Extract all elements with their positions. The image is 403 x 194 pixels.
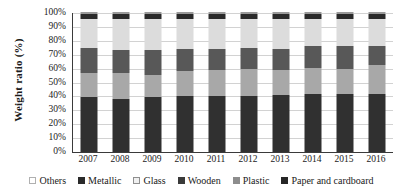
bar-segment (273, 49, 290, 70)
legend-swatch-icon (178, 177, 185, 184)
bar-segment (145, 75, 162, 97)
y-axis-tick-label: 40% (49, 92, 66, 102)
bar-segment (209, 96, 226, 152)
bar-group (105, 13, 137, 152)
x-axis-tick-label: 2008 (111, 154, 130, 164)
legend-label: Paper and cardboard (291, 175, 373, 186)
stacked-bar (337, 13, 354, 152)
bar-segment (177, 19, 194, 50)
legend-label: Wooden (188, 175, 221, 186)
stacked-bar (305, 13, 322, 152)
legend-item[interactable]: Plastic (233, 175, 270, 186)
bar-segment (113, 99, 130, 153)
bar-segment (305, 94, 322, 152)
bar-segment (305, 14, 322, 18)
bar-series-container (73, 13, 393, 152)
x-axis-tick-label: 2014 (303, 154, 322, 164)
bar-segment (113, 12, 130, 14)
legend-item[interactable]: Wooden (178, 175, 221, 186)
bar-segment (241, 12, 258, 14)
stacked-bar (241, 13, 258, 152)
bar-segment (273, 95, 290, 152)
x-axis-tick-label: 2011 (207, 154, 226, 164)
bar-segment (337, 19, 354, 47)
stacked-bar (145, 13, 162, 152)
y-axis-tick-label: 70% (49, 50, 66, 60)
y-axis-tick-label: 90% (49, 22, 66, 32)
x-axis-tick-label: 2013 (271, 154, 290, 164)
bar-segment (369, 46, 386, 65)
bar-group (265, 13, 297, 152)
y-axis-tick-label: 60% (49, 64, 66, 74)
bar-segment (81, 14, 98, 18)
bar-group (329, 13, 361, 152)
y-axis-tick-label: 50% (49, 78, 66, 88)
bar-segment (81, 12, 98, 14)
bar-segment (81, 48, 98, 72)
bar-segment (337, 94, 354, 152)
bar-segment (305, 68, 322, 94)
y-axis-tick-label: 100% (44, 8, 66, 18)
bar-segment (145, 19, 162, 50)
bar-segment (273, 12, 290, 14)
bar-segment (113, 19, 130, 50)
bar-segment (241, 96, 258, 152)
bar-group (361, 13, 393, 152)
bar-segment (177, 12, 194, 14)
y-axis-tick-label: 10% (49, 133, 66, 143)
legend-swatch-icon (29, 177, 36, 184)
bar-segment (369, 94, 386, 152)
bar-segment (337, 69, 354, 93)
bar-segment (209, 19, 226, 49)
stacked-bar (81, 13, 98, 152)
legend-item[interactable]: Others (29, 175, 66, 186)
legend-item[interactable]: Paper and cardboard (281, 175, 373, 186)
bar-segment (369, 12, 386, 14)
bar-segment (177, 14, 194, 18)
legend-swatch-icon (133, 177, 140, 184)
bar-segment (241, 69, 258, 96)
bar-segment (273, 19, 290, 50)
legend-swatch-icon (281, 177, 288, 184)
bar-segment (209, 12, 226, 14)
legend-label: Plastic (243, 175, 270, 186)
legend-label: Glass (143, 175, 165, 186)
legend-swatch-icon (233, 177, 240, 184)
bar-segment (369, 14, 386, 18)
bar-segment (241, 14, 258, 18)
x-axis-tick-label: 2007 (79, 154, 98, 164)
y-axis-tick-label: 80% (49, 36, 66, 46)
stacked-bar (209, 13, 226, 152)
bar-segment (177, 49, 194, 71)
legend-item[interactable]: Metallic (78, 175, 121, 186)
x-axis-tick-label: 2009 (143, 154, 162, 164)
x-axis-tick-label: 2010 (175, 154, 194, 164)
plot-area (72, 13, 393, 153)
bar-segment (145, 14, 162, 18)
legend-item[interactable]: Glass (133, 175, 165, 186)
bar-group (137, 13, 169, 152)
legend-label: Metallic (88, 175, 121, 186)
bar-segment (145, 97, 162, 152)
bar-segment (241, 19, 258, 49)
stacked-bar (113, 13, 130, 152)
bar-segment (369, 65, 386, 94)
bar-segment (273, 14, 290, 18)
y-axis-tick-label: 20% (49, 119, 66, 129)
bar-segment (81, 73, 98, 97)
bar-segment (145, 12, 162, 14)
bar-group (201, 13, 233, 152)
bar-segment (113, 73, 130, 98)
bar-segment (209, 49, 226, 70)
bar-segment (145, 50, 162, 75)
bar-segment (177, 96, 194, 152)
bar-segment (273, 70, 290, 95)
bar-group (169, 13, 201, 152)
y-axis-tick-label: 30% (49, 106, 66, 116)
bar-segment (177, 71, 194, 96)
bar-segment (81, 97, 98, 152)
bar-group (73, 13, 105, 152)
bar-segment (337, 14, 354, 18)
stacked-bar (177, 13, 194, 152)
x-axis-tick-labels: 2007200820092010201120122013201420152016 (72, 154, 392, 168)
